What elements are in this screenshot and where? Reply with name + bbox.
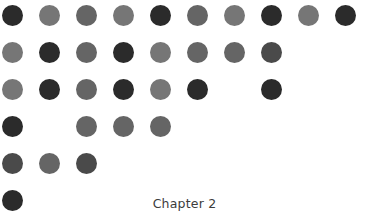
grid-dot	[2, 79, 23, 100]
grid-dot	[113, 79, 134, 100]
grid-dot	[150, 116, 171, 137]
grid-dot	[261, 79, 282, 100]
grid-dot	[39, 5, 60, 26]
grid-dot	[39, 79, 60, 100]
grid-dot	[76, 5, 97, 26]
grid-dot	[39, 153, 60, 174]
page-root: Chapter 2	[0, 0, 369, 216]
grid-dot	[113, 5, 134, 26]
grid-dot	[76, 42, 97, 63]
grid-dot	[76, 79, 97, 100]
grid-dot	[2, 42, 23, 63]
grid-dot	[150, 5, 171, 26]
dot-grid	[0, 0, 369, 216]
grid-dot	[187, 79, 208, 100]
grid-dot	[187, 42, 208, 63]
grid-dot	[2, 116, 23, 137]
grid-dot	[2, 5, 23, 26]
grid-dot	[113, 42, 134, 63]
grid-dot	[224, 42, 245, 63]
grid-dot	[2, 153, 23, 174]
grid-dot	[76, 153, 97, 174]
grid-dot	[39, 42, 60, 63]
grid-dot	[150, 42, 171, 63]
grid-dot	[335, 5, 356, 26]
chapter-label: Chapter 2	[0, 198, 369, 211]
grid-dot	[150, 79, 171, 100]
grid-dot	[261, 5, 282, 26]
grid-dot	[261, 42, 282, 63]
grid-dot	[298, 5, 319, 26]
grid-dot	[76, 116, 97, 137]
grid-dot	[113, 116, 134, 137]
grid-dot	[224, 5, 245, 26]
grid-dot	[187, 5, 208, 26]
